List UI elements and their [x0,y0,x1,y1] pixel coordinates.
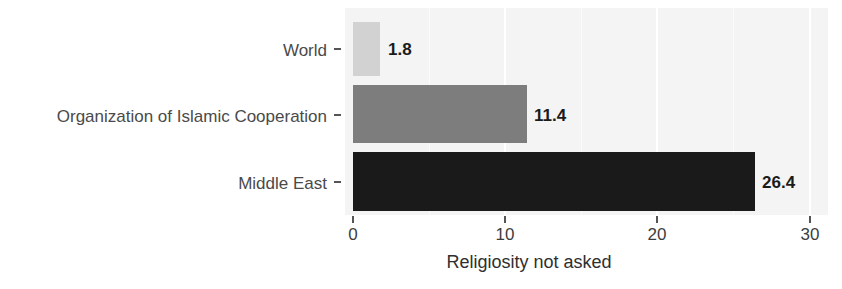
x-tick-20 [656,216,658,223]
x-tick-label-20: 20 [648,226,667,243]
x-tick-10 [504,216,506,223]
category-tick-world [334,48,341,50]
category-axis: World Organization of Islamic Cooperatio… [0,0,327,289]
x-tick-label-30: 30 [801,226,820,243]
value-label-middle-east: 26.4 [762,174,795,191]
plot-panel [345,8,828,215]
x-tick-0 [352,216,354,223]
category-label-middle-east: Middle East [238,175,327,192]
bar-middle-east[interactable] [353,152,755,211]
bar-world[interactable] [353,22,380,76]
x-tick-label-10: 10 [496,226,515,243]
x-axis-title: Religiosity not asked [446,253,611,271]
value-label-organization-of-islamic-cooperation: 11.4 [534,107,566,124]
category-label-world: World [283,42,327,59]
bar-chart: 1.8 11.4 26.4 World Organization of Isla… [0,0,842,289]
x-axis-title-wrapper: Religiosity not asked [0,253,842,271]
x-tick-30 [809,216,811,223]
value-label-world: 1.8 [388,41,412,58]
gridline-x-30 [809,8,811,215]
category-tick-middle-east [334,181,341,183]
category-label-organization-of-islamic-cooperation: Organization of Islamic Cooperation [57,108,327,125]
category-tick-organization-of-islamic-cooperation [334,114,341,116]
bar-organization-of-islamic-cooperation[interactable] [353,85,527,143]
x-tick-label-0: 0 [348,226,357,243]
